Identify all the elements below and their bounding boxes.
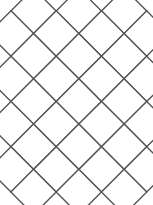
- lattice-diagram: Diagonal diamond lattice tiling on a rec…: [0, 0, 153, 205]
- diamond-tiles-layer: [0, 0, 153, 205]
- figure-canvas: Diagonal diamond lattice tiling on a rec…: [0, 0, 153, 205]
